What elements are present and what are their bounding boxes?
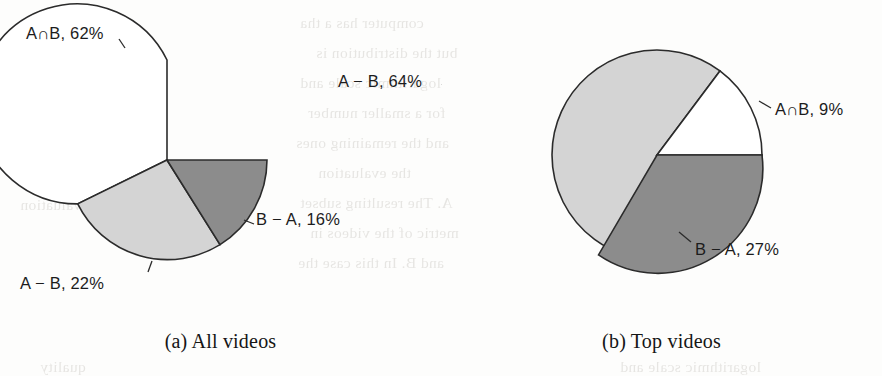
pie-chart-top-videos <box>441 0 882 330</box>
label-a-minus-b: A − B, 22% <box>20 274 104 293</box>
panel-all-videos: A∩B, 62% B − A, 16% A − B, 22% (a) All v… <box>0 0 441 376</box>
figure-root: computer has a tha but the distribution … <box>0 0 882 376</box>
leader-line-a-minus-b <box>148 261 152 272</box>
caption-all-videos: (a) All videos <box>0 330 441 353</box>
label-a-inter-b: A∩B, 62% <box>26 24 104 43</box>
leader-line-a-inter-b <box>759 101 771 108</box>
label-a-minus-b: A − B, 64% <box>338 72 422 91</box>
caption-top-videos: (b) Top videos <box>441 330 882 353</box>
panel-top-videos: A − B, 64% A∩B, 9% B − A, 27% (b) Top vi… <box>441 0 882 376</box>
label-b-minus-a: B − A, 27% <box>695 240 779 259</box>
label-a-inter-b: A∩B, 9% <box>775 100 843 119</box>
label-b-minus-a: B − A, 16% <box>256 210 340 229</box>
